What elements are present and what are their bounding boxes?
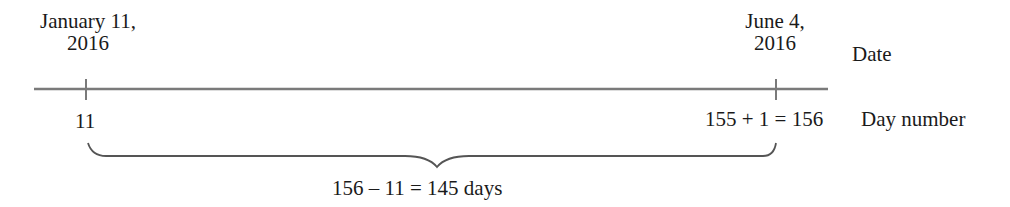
end-date-label: June 4, 2016: [720, 10, 830, 54]
start-date-line2: 2016: [18, 32, 158, 54]
date-row-label: Date: [852, 43, 892, 65]
difference-label: 156 – 11 = 145 days: [332, 177, 502, 199]
end-date-line1: June 4,: [720, 10, 830, 32]
end-day-number: 155 + 1 = 156: [705, 108, 823, 130]
span-brace: [88, 143, 776, 167]
start-date-line1: January 11,: [18, 10, 158, 32]
start-date-label: January 11, 2016: [18, 10, 158, 54]
day-number-row-label: Day number: [861, 108, 965, 130]
start-day-number: 11: [75, 110, 95, 132]
end-date-line2: 2016: [720, 32, 830, 54]
